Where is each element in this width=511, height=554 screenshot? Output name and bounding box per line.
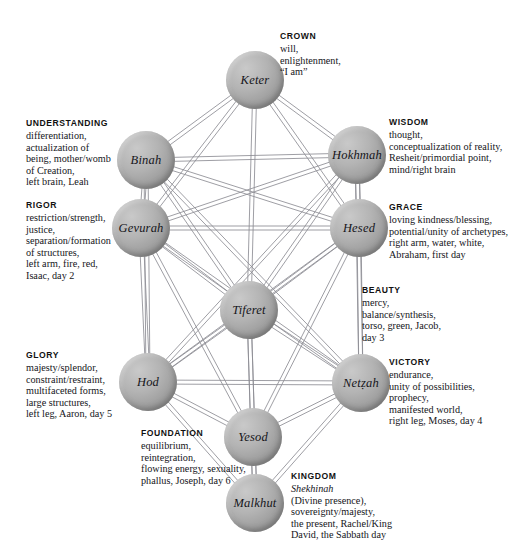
edge-line [171,396,228,426]
annotation-title: RIGOR [26,199,111,211]
sefirah-label: Netẓah [343,376,379,391]
sefirah-label: Gevurah [118,221,163,236]
annotation-title: UNDERSTANDING [26,117,111,129]
annotation-title: CROWN [280,30,341,42]
annotation-grace: GRACEloving kindness/blessing, potential… [389,201,508,260]
annotation-title: KINGDOM [291,470,392,482]
annotation-glory: GLORYmajesty/splendor, constraint/restra… [26,349,112,420]
sefirah-label: Hod [137,375,159,390]
sefirah-label: Binah [131,153,162,168]
edge-line [140,255,145,355]
annotation-body: endurance, unity of possibilities, proph… [389,369,482,427]
annotation-title: GLORY [26,349,112,361]
annotation-body: Shekhinah (Divine presence), sovereignty… [291,483,392,541]
annotation-title: BEAUTY [362,284,441,296]
sefirah-node-hokhmah[interactable]: Hokhmah [328,126,386,184]
edge-line [252,107,257,283]
annotation-body: differentiation, actualization of being,… [26,130,111,188]
sefirah-node-keter[interactable]: Keter [226,51,284,109]
edge-keter-hokhmah [276,94,337,140]
edge-line [278,94,336,137]
annotation-body: thought, conceptualization of reality, R… [389,129,502,175]
edge-line [276,98,334,141]
edge-line [167,94,232,142]
sefirah-node-netzah[interactable]: Netẓah [332,354,390,412]
annotation-wisdom: WISDOMthought, conceptualization of real… [389,116,502,175]
edge-keter-binah [167,94,235,145]
edge-line [169,324,226,365]
sefirah-node-hod[interactable]: Hod [119,353,177,411]
annotation-body: majesty/splendor, constraint/restraint, … [26,362,112,420]
edge-line [169,98,234,146]
edge-gevurah-hod [140,255,149,355]
annotation-body: loving kindness/blessing, potential/unit… [389,214,508,260]
sefirah-label: Malkhut [233,496,276,511]
sefirah-label: Tiferet [232,303,266,318]
edge-hod-netzah [175,380,334,385]
annotation-beauty: BEAUTYmercy, balance/synthesis, torso, g… [362,284,441,343]
annotation-body: will, enlightenment, “I am” [280,43,341,78]
sefirah-label: Hokhmah [332,148,382,163]
edge-binah-hesed [171,166,334,221]
annotation-understanding: UNDERSTANDINGdifferentiation, actualizat… [26,117,111,188]
annotation-title: WISDOM [389,116,502,128]
edge-line [173,393,230,423]
edge-binah-hokhmah [173,154,330,162]
edge-line [175,380,334,381]
annotation-title: VICTORY [389,356,482,368]
tree-of-life-diagram: KeterBinahHokhmahGevurahHesedTiferetHodN… [0,0,511,554]
annotation-body: equilibrium, reintegration, flowing ener… [141,440,246,486]
edge-line [263,176,340,287]
sefirah-label: Keter [241,73,270,88]
annotation-title: GRACE [389,201,508,213]
edge-line [163,181,235,286]
annotation-victory: VICTORYendurance, unity of possibilities… [389,356,482,427]
annotation-body: mercy, balance/synthesis, torso, green, … [362,297,441,343]
sefirah-label: Hesed [343,221,375,236]
sefirah-node-binah[interactable]: Binah [117,131,175,189]
annotation-kingdom: KINGDOMShekhinah (Divine presence), sove… [291,470,392,541]
edge-binah-tiferet [160,181,236,289]
edge-line [273,323,340,367]
sefirah-node-gevurah[interactable]: Gevurah [112,199,170,257]
annotation-foundation: FOUNDATIONequilibrium, reintegration, fl… [141,427,246,486]
annotation-rigor: RIGORrestriction/strength, justice, sepa… [26,199,111,282]
annotation-title: FOUNDATION [141,427,246,439]
sefirah-node-hesed[interactable]: Hesed [330,199,388,257]
annotation-crown: CROWNwill, enlightenment, “I am” [280,30,341,78]
edge-netzah-yesod [276,393,337,426]
annotation-body: restriction/strength, justice, separatio… [26,212,111,282]
edge-line [175,384,334,385]
sefirah-node-tiferet[interactable]: Tiferet [220,281,278,339]
